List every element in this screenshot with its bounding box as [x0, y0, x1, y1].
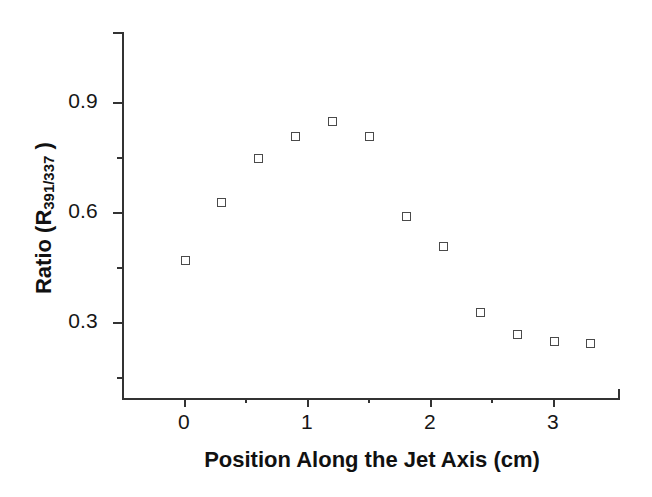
x-axis-title: Position Along the Jet Axis (cm)	[122, 447, 622, 473]
y-axis-title: Ratio (R391/337 )	[31, 88, 57, 348]
x-tick-minor-1.5	[368, 398, 370, 403]
data-point	[254, 154, 263, 163]
data-point	[476, 308, 485, 317]
chart-figure: 0.9 0.6 0.3 0 1 2 3 Position Along the J…	[0, 0, 652, 497]
data-point	[365, 132, 374, 141]
y-tick-major-0.6	[113, 212, 123, 214]
y-axis-title-prefix: Ratio (R	[31, 210, 56, 294]
x-axis-right-cap	[618, 389, 620, 400]
x-tick-label-2: 2	[410, 410, 450, 434]
data-point	[402, 212, 411, 221]
x-tick-label-0: 0	[164, 410, 204, 434]
data-point	[439, 242, 448, 251]
data-point	[181, 256, 190, 265]
data-point	[217, 198, 226, 207]
y-tick-minor-0.15	[117, 377, 123, 379]
x-tick-label-3: 3	[533, 410, 573, 434]
x-tick-major-2	[430, 398, 432, 407]
y-tick-major-0.9	[113, 102, 123, 104]
y-axis-top-cap	[113, 32, 123, 34]
y-tick-minor-0.45	[117, 267, 123, 269]
data-point	[291, 132, 300, 141]
y-axis-title-suffix: )	[31, 142, 56, 155]
y-tick-major-0.3	[113, 322, 123, 324]
data-point	[328, 117, 337, 126]
x-tick-major-1	[307, 398, 309, 407]
data-point	[586, 339, 595, 348]
x-tick-minor-0.5	[245, 398, 247, 403]
x-tick-label-1: 1	[287, 410, 327, 434]
plot-area: 0.9 0.6 0.3 0 1 2 3 Position Along the J…	[0, 0, 652, 497]
y-axis-line	[122, 32, 124, 400]
x-tick-minor-2.5	[491, 398, 493, 403]
x-tick-major-3	[553, 398, 555, 407]
data-point	[513, 330, 522, 339]
y-axis-title-subscript: 391/337	[40, 156, 57, 210]
data-point	[550, 337, 559, 346]
y-tick-minor-0.75	[117, 157, 123, 159]
x-axis-line	[122, 398, 620, 400]
x-tick-major-0	[184, 398, 186, 407]
